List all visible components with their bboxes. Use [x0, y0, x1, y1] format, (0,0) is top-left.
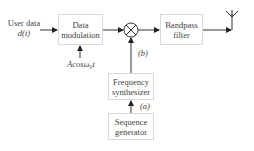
antenna-icon: [226, 10, 238, 30]
carrier-label: Acosω₀t: [60, 59, 102, 69]
frequency-synthesizer-block: Frequency synthesizer: [108, 73, 154, 100]
user-data-symbol: d(t): [6, 28, 42, 38]
user-data-text: User data: [6, 18, 42, 28]
data-modulation-block: Data modulation: [58, 14, 103, 45]
synth-line2: synthesizer: [112, 87, 150, 97]
signal-b-label: (b): [135, 48, 151, 58]
mixer-icon: [124, 23, 138, 37]
bandpass-line2: filter: [173, 30, 190, 40]
user-data-label: User data d(t): [6, 18, 42, 38]
sequence-generator-block: Sequence generator: [108, 113, 154, 140]
seqgen-line2: generator: [115, 127, 147, 137]
data-modulation-line2: modulation: [61, 30, 100, 40]
bandpass-line1: Bandpass: [165, 20, 198, 30]
synth-line1: Frequency: [113, 77, 149, 87]
seqgen-line1: Sequence: [115, 117, 148, 127]
signal-a-label: (a): [138, 101, 152, 111]
data-modulation-line1: Data: [72, 20, 88, 30]
bandpass-filter-block: Bandpass filter: [160, 14, 203, 45]
